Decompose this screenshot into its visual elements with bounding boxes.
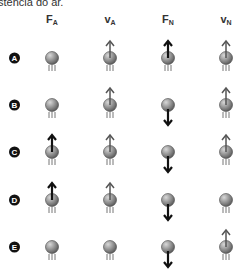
column-header-fn: FN xyxy=(162,13,174,26)
ball-a-fa xyxy=(37,36,67,80)
ball-b-fa xyxy=(37,83,67,127)
column-header-symbol: F xyxy=(46,13,53,25)
ball xyxy=(220,194,233,207)
ball-e-fa xyxy=(37,225,67,269)
ball-e-fn-arrow-down-icon xyxy=(153,225,183,269)
option-label-b[interactable]: B xyxy=(9,100,20,111)
ball-d-vn xyxy=(211,178,241,222)
ball-b-vn-arrow-up-icon xyxy=(211,83,241,127)
intro-text: stência do ar. xyxy=(0,0,63,8)
ball-d-fa-arrow-up-icon xyxy=(37,178,67,222)
column-header-subscript: N xyxy=(227,19,232,26)
option-label-e[interactable]: E xyxy=(9,242,20,253)
option-label-a[interactable]: A xyxy=(9,53,20,64)
ball-b-va-arrow-up-icon xyxy=(95,83,125,127)
column-header-subscript: N xyxy=(169,19,174,26)
ball-c-va-arrow-up-icon xyxy=(95,130,125,174)
ball-a-vn-arrow-up-icon xyxy=(211,36,241,80)
column-header-subscript: A xyxy=(53,19,58,26)
ball xyxy=(46,99,59,112)
ball xyxy=(104,241,117,254)
column-header-subscript: A xyxy=(111,19,116,26)
ball-b-fn-arrow-down-icon xyxy=(153,83,183,127)
ball xyxy=(46,241,59,254)
option-label-c[interactable]: C xyxy=(9,147,20,158)
ball-c-vn-arrow-up-icon xyxy=(211,130,241,174)
ball xyxy=(46,52,59,65)
ball-d-fn-arrow-down-icon xyxy=(153,178,183,222)
ball-a-fn-arrow-up-icon xyxy=(153,36,183,80)
ball-e-va xyxy=(95,225,125,269)
ball-c-fa-arrow-up-icon xyxy=(37,130,67,174)
option-label-d[interactable]: D xyxy=(9,195,20,206)
column-header-fa: FA xyxy=(46,13,58,26)
column-header-vn: vN xyxy=(220,13,231,26)
ball-d-va-arrow-up-icon xyxy=(95,178,125,222)
ball-a-va-arrow-up-icon xyxy=(95,36,125,80)
ball-e-vn-arrow-up-icon xyxy=(211,225,241,269)
column-header-va: vA xyxy=(104,13,115,26)
column-header-symbol: F xyxy=(162,13,169,25)
ball-c-fn-arrow-down-icon xyxy=(153,130,183,174)
